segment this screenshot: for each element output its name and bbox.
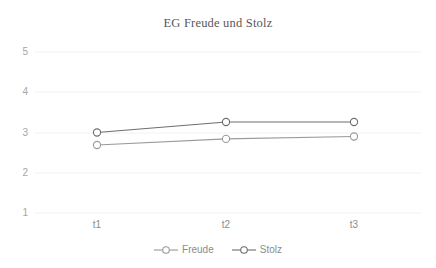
- legend-marker-icon-stolz: [232, 245, 256, 255]
- legend-item-stolz[interactable]: Stolz: [232, 245, 282, 255]
- legend-label-freude: Freude: [182, 245, 214, 255]
- data-point-freude-t3: [350, 133, 357, 140]
- x-axis-tick-t1: t1: [77, 220, 117, 230]
- data-point-stolz-t2: [222, 118, 229, 125]
- data-point-freude-t2: [222, 135, 229, 142]
- data-point-stolz-t3: [350, 118, 357, 125]
- x-axis-tick-t3: t3: [334, 220, 374, 230]
- legend-item-freude[interactable]: Freude: [154, 245, 214, 255]
- y-axis-tick-1: 1: [10, 208, 28, 218]
- legend-label-stolz: Stolz: [260, 245, 282, 255]
- chart-legend: Freude Stolz: [0, 245, 436, 255]
- series-line-freude: [93, 133, 357, 149]
- y-axis-tick-5: 5: [10, 47, 28, 57]
- y-axis-tick-4: 4: [10, 87, 28, 97]
- x-axis-tick-t2: t2: [206, 220, 246, 230]
- legend-marker-icon-freude: [154, 245, 178, 255]
- data-point-freude-t1: [93, 141, 100, 148]
- y-axis-tick-3: 3: [10, 128, 28, 138]
- y-axis-tick-2: 2: [10, 168, 28, 178]
- chart-container: EG Freude und Stolz 5 4 3 2 1 t1 t2 t3: [0, 0, 436, 268]
- data-point-stolz-t1: [93, 129, 100, 136]
